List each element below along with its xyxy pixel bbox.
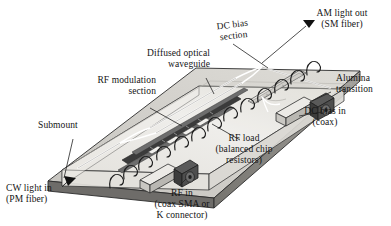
label-cw-light-in: CW light in (PM fiber) [6, 183, 86, 205]
figure-canvas: AM light out (SM fiber) DC bias section … [0, 0, 391, 226]
label-rf-modulation-section: RF modulation section [58, 75, 156, 97]
rf-in-line3: K connector) [128, 210, 236, 221]
leader-dc-bias-section [233, 44, 268, 68]
label-diffused-optical-waveguide: Diffused optical waveguide [100, 48, 210, 70]
diffused-waveguide-line1: Diffused optical [100, 48, 210, 59]
label-submount: Submount [38, 120, 108, 131]
label-am-light-out: AM light out (SM fiber) [296, 8, 388, 30]
rf-in-line2: (coax SMA or [128, 199, 236, 210]
rf-load-line3: resistors) [194, 155, 294, 166]
alumina-transition-line2: transition [336, 84, 391, 95]
rf-load-line2: (balanced chip [194, 144, 294, 155]
dc-bias-in-line1: DC bias in [288, 106, 362, 117]
diffused-waveguide-line2: waveguide [100, 59, 210, 70]
submount-line1: Submount [38, 120, 108, 131]
label-rf-in: RF in (coax SMA or K connector) [128, 188, 236, 221]
rf-load-line1: RF load [194, 133, 294, 144]
am-light-out-line1: AM light out [296, 8, 388, 19]
dc-bias-in-line2: (coax) [288, 117, 362, 128]
label-dc-bias-in: DC bias in (coax) [288, 106, 362, 128]
cw-light-in-line1: CW light in [6, 183, 86, 194]
rf-modulation-line2: section [58, 86, 156, 97]
rf-modulation-line1: RF modulation [58, 75, 156, 86]
cw-light-in-line2: (PM fiber) [6, 194, 86, 205]
alumina-transition-line1: Alumina [336, 73, 391, 84]
rf-in-line1: RF in [128, 188, 236, 199]
label-alumina-transition: Alumina transition [336, 73, 391, 95]
am-light-out-line2: (SM fiber) [296, 19, 388, 30]
label-rf-load: RF load (balanced chip resistors) [194, 133, 294, 166]
